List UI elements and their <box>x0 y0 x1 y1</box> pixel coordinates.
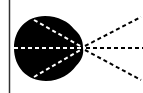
outer-ray-lower <box>85 50 141 80</box>
outer-dashed-rays <box>85 17 143 80</box>
outer-ray-upper <box>85 17 141 46</box>
ray-diagram <box>0 0 143 93</box>
